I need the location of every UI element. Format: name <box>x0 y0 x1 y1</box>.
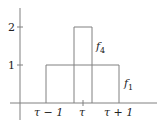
x-tick-label-tau-minus-1: τ − 1 <box>34 106 63 119</box>
f1-label: f1 <box>123 77 133 92</box>
x-tick-label-tau-plus-1: τ + 1 <box>104 106 133 119</box>
y-tick-label-1: 1 <box>8 59 15 72</box>
x-tick-label-tau: τ <box>79 106 86 119</box>
f1-rectangle <box>46 65 119 103</box>
step-function-diagram: 2 1 τ − 1 τ τ + 1 f4 f1 <box>0 0 164 125</box>
y-tick-label-2: 2 <box>8 21 15 34</box>
f4-label: f4 <box>95 40 105 55</box>
